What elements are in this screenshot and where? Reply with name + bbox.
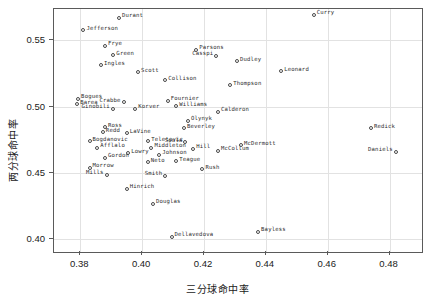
data-point[interactable] [122,100,126,104]
gridline-horizontal [54,173,422,174]
data-point[interactable] [151,202,155,206]
data-point-label: Hinrich [130,183,155,189]
data-point[interactable] [103,156,107,160]
gridline-vertical [390,9,391,252]
data-point[interactable] [149,146,153,150]
y-axis-tick [49,39,53,40]
data-point-label: Leonard [284,66,309,72]
data-point-label: McDermott [244,140,276,146]
y-axis-tick [49,172,53,173]
data-point-label: Thompson [233,80,261,86]
y-axis-tick-label: 0.40 [11,233,45,244]
data-point[interactable] [216,149,220,153]
data-point[interactable] [216,110,220,114]
data-point[interactable] [125,131,129,135]
data-point-label: Parsons [199,44,224,50]
data-point[interactable] [194,48,198,52]
data-point-label: Redd [106,127,120,133]
data-point[interactable] [125,187,129,191]
data-point-label: Olynyk [191,115,212,121]
data-point[interactable] [146,139,150,143]
data-point-label: Bayless [261,226,286,232]
data-point[interactable] [75,102,79,106]
data-point[interactable] [182,126,186,130]
data-point-label: Redick [374,123,395,129]
data-point[interactable] [163,78,167,82]
data-point[interactable] [235,59,239,63]
data-point-label: McCollum [221,145,249,151]
data-point[interactable] [103,44,107,48]
data-point-label: Green [116,50,134,56]
data-point[interactable] [95,146,99,150]
x-axis-title: 三分球命中率 [0,281,435,296]
x-axis-tick-label: 0.44 [256,258,275,269]
data-point[interactable] [146,160,150,164]
data-point[interactable] [88,139,92,143]
data-point-label: Crabbe [99,97,120,103]
x-axis-tick-label: 0.38 [70,258,89,269]
data-point-label: Daniels [368,146,393,152]
y-axis-tick [49,238,53,239]
data-point-label: Neto [151,157,165,163]
data-point[interactable] [163,174,167,178]
data-point-label: Morrow [93,162,114,168]
data-point-label: Smith [145,170,163,176]
data-point[interactable] [214,54,218,58]
data-point[interactable] [111,53,115,57]
x-axis-tick [265,251,266,255]
x-axis-tick-label: 0.46 [317,258,336,269]
data-point-label: Williams [179,101,207,107]
data-point-label: Johnson [162,149,187,155]
data-point[interactable] [394,150,398,154]
data-point-label: Afflalo [100,142,125,148]
plot-area: DurantJeffersonFryeGreenInglesScottCassp… [53,8,423,253]
data-point-label: Jefferson [86,25,118,31]
y-axis-tick-label: 0.55 [11,34,45,45]
data-point[interactable] [369,126,373,130]
data-point-label: Hill [196,143,210,149]
data-point[interactable] [136,70,140,74]
data-point-label: Ingles [104,60,125,66]
data-point[interactable] [228,83,232,87]
data-point[interactable] [105,173,109,177]
data-point[interactable] [111,107,115,111]
data-point-label: Teague [179,156,200,162]
data-point[interactable] [312,13,316,17]
data-point-label: Lowry [131,148,149,154]
data-point-label: Beverley [187,123,215,129]
scatter-chart: DurantJeffersonFryeGreenInglesScottCassp… [0,0,435,299]
data-point-label: Dellavedova [175,231,214,237]
data-point-label: Dudley [240,56,261,62]
data-point-label: Ginobili [82,103,110,109]
gridline-vertical [80,9,81,252]
data-point[interactable] [279,69,283,73]
data-point[interactable] [99,63,103,67]
x-axis-tick-label: 0.42 [194,258,213,269]
data-point-label: LaVine [130,128,151,134]
y-axis-title: 两分球命中率 [5,100,20,200]
data-point-label: Curry [317,9,335,15]
gridline-vertical [328,9,329,252]
y-axis-tick [49,106,53,107]
x-axis-tick [141,251,142,255]
x-axis-tick-label: 0.40 [132,258,151,269]
data-point[interactable] [101,130,105,134]
data-point[interactable] [117,16,121,20]
data-point[interactable] [256,230,260,234]
data-point-label: Gordon [108,152,129,158]
data-point[interactable] [191,147,195,151]
data-point[interactable] [170,235,174,239]
data-point-label: Calderon [221,106,249,112]
data-point[interactable] [133,107,137,111]
data-point[interactable] [174,159,178,163]
x-axis-tick [389,251,390,255]
data-point-label: Durant [122,12,143,18]
data-point-label: Frye [108,40,122,46]
data-point-label: Douglas [156,198,181,204]
data-point-label: Rush [205,164,219,170]
gridline-horizontal [54,239,422,240]
x-axis-tick-label: 0.48 [379,258,398,269]
data-point[interactable] [166,99,170,103]
data-point-label: Mills [86,169,104,175]
data-point[interactable] [81,28,85,32]
